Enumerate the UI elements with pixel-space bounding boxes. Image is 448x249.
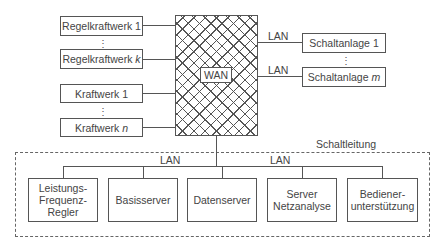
node-bedienerunterstuetzung: Bediener- unterstützung bbox=[347, 178, 418, 222]
node-label: Server Netzanalyse bbox=[273, 188, 331, 212]
node-index: m bbox=[371, 71, 380, 83]
node-kraftwerk-1: Kraftwerk 1 bbox=[60, 84, 143, 103]
connector bbox=[222, 166, 223, 178]
ellipsis-vertical: ⋮ bbox=[98, 110, 104, 114]
node-index: k bbox=[135, 53, 140, 65]
lan-label: LAN bbox=[270, 154, 290, 166]
node-basisserver: Basisserver bbox=[108, 178, 178, 222]
node-label: Datenserver bbox=[193, 194, 250, 206]
node-server-netzanalyse: Server Netzanalyse bbox=[267, 178, 337, 222]
node-label: Schaltanlage bbox=[308, 71, 369, 83]
connector bbox=[258, 42, 302, 43]
connector bbox=[63, 166, 64, 178]
ellipsis-vertical: ⋮ bbox=[341, 59, 347, 63]
lan-label: LAN bbox=[268, 64, 288, 76]
node-regelkraftwerk-1: Regelkraftwerk 1 bbox=[60, 16, 143, 36]
connector bbox=[258, 76, 302, 77]
node-schaltanlage-m: Schaltanlage m bbox=[302, 67, 386, 87]
connector bbox=[302, 166, 303, 178]
node-leistungs-frequenz-regler: Leistungs- Frequenz- Regler bbox=[28, 178, 98, 222]
node-label: Leistungs- Frequenz- Regler bbox=[39, 182, 87, 218]
node-regelkraftwerk-k: Regelkraftwerk k bbox=[60, 49, 143, 69]
connector bbox=[143, 25, 175, 26]
connector bbox=[143, 93, 175, 94]
connector bbox=[143, 127, 175, 128]
lan-bus bbox=[63, 166, 383, 167]
node-label: Bediener- unterstützung bbox=[351, 188, 415, 212]
node-label: Regelkraftwerk bbox=[62, 53, 132, 65]
control-center-title: Schaltleitung bbox=[316, 138, 376, 150]
node-kraftwerk-n: Kraftwerk n bbox=[60, 118, 143, 137]
node-label: Kraftwerk bbox=[75, 122, 119, 134]
connector bbox=[382, 166, 383, 178]
node-label: Basisserver bbox=[116, 194, 171, 206]
node-datenserver: Datenserver bbox=[187, 178, 257, 222]
lan-label: LAN bbox=[268, 30, 288, 42]
connector bbox=[143, 59, 175, 60]
node-label: Regelkraftwerk 1 bbox=[62, 20, 141, 32]
node-label: Schaltanlage 1 bbox=[309, 37, 378, 49]
wan-label: WAN bbox=[200, 67, 232, 83]
node-label: Kraftwerk 1 bbox=[75, 88, 128, 100]
connector bbox=[143, 166, 144, 178]
lan-label: LAN bbox=[160, 154, 180, 166]
node-index: n bbox=[122, 122, 128, 134]
ellipsis-vertical: ⋮ bbox=[98, 42, 104, 46]
node-schaltanlage-1: Schaltanlage 1 bbox=[302, 33, 386, 53]
connector bbox=[216, 136, 217, 166]
